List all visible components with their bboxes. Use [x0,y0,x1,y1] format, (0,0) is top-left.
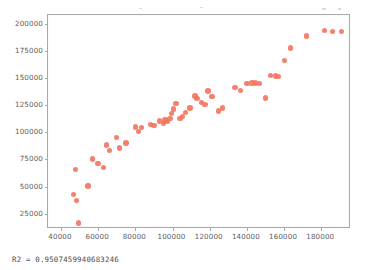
data-point [71,192,76,197]
x-tick-label: 140000 [232,232,260,241]
data-point [167,116,172,121]
data-point [183,110,188,115]
scatter-figure: 2500050000750001000001250001500001750002… [0,0,371,270]
data-point [330,29,335,34]
y-tick-label: 125000 [15,100,43,109]
data-point [202,102,207,107]
data-points-layer [48,15,349,227]
data-point [151,123,156,128]
data-point [339,29,344,34]
x-tick-mark [210,227,211,231]
data-point [76,220,81,225]
y-tick-mark [45,132,49,133]
data-point [104,142,109,147]
plot-area [47,14,350,228]
data-point [95,161,100,166]
y-tick-mark [45,159,49,160]
data-point [288,45,293,50]
data-point [107,148,112,153]
x-tick-mark [321,227,322,231]
data-point [74,198,79,203]
data-point [238,88,243,93]
scan-artifact [338,8,341,10]
y-tick-mark [45,24,49,25]
y-tick-label: 150000 [15,73,43,82]
data-point [171,106,176,111]
x-tick-label: 60000 [86,232,109,241]
x-tick-label: 120000 [195,232,223,241]
data-point [139,125,144,130]
data-point [322,28,327,33]
x-tick-mark [247,227,248,231]
data-point [123,140,128,145]
data-point [101,165,106,170]
scan-artifact [139,8,142,9]
y-tick-label: 75000 [20,154,43,163]
y-tick-label: 50000 [20,181,43,190]
data-point [282,58,287,63]
x-tick-label: 40000 [48,232,71,241]
data-point [205,88,210,93]
y-tick-mark [45,105,49,106]
x-axis: 4000060000800001000001200001400001600001… [0,232,371,244]
data-point [276,74,281,79]
data-point [85,183,90,188]
data-point [263,95,268,100]
x-tick-mark [61,227,62,231]
scan-artifact [200,7,203,8]
y-tick-label: 25000 [20,208,43,217]
data-point [90,156,95,161]
data-point [209,94,214,99]
data-point [73,167,78,172]
x-tick-label: 80000 [123,232,146,241]
y-tick-label: 100000 [15,127,43,136]
data-point [304,33,309,38]
scan-artifact [322,8,326,10]
y-tick-mark [45,51,49,52]
data-point [257,81,262,86]
x-tick-mark [135,227,136,231]
data-point [117,145,122,150]
x-tick-mark [98,227,99,231]
data-point [114,135,119,140]
x-tick-mark [173,227,174,231]
y-tick-mark [45,214,49,215]
y-tick-label: 200000 [15,18,43,27]
data-point [232,85,237,90]
y-tick-mark [45,78,49,79]
x-tick-label: 180000 [306,232,334,241]
data-point [187,105,192,110]
y-tick-label: 175000 [15,45,43,54]
x-tick-label: 160000 [269,232,297,241]
data-point [220,105,225,110]
y-tick-mark [45,187,49,188]
r2-caption: R2 = 0.9507459940683246 [12,255,119,264]
x-tick-label: 100000 [158,232,186,241]
x-tick-mark [284,227,285,231]
y-axis: 2500050000750001000001250001500001750002… [0,0,43,270]
data-point [173,101,178,106]
